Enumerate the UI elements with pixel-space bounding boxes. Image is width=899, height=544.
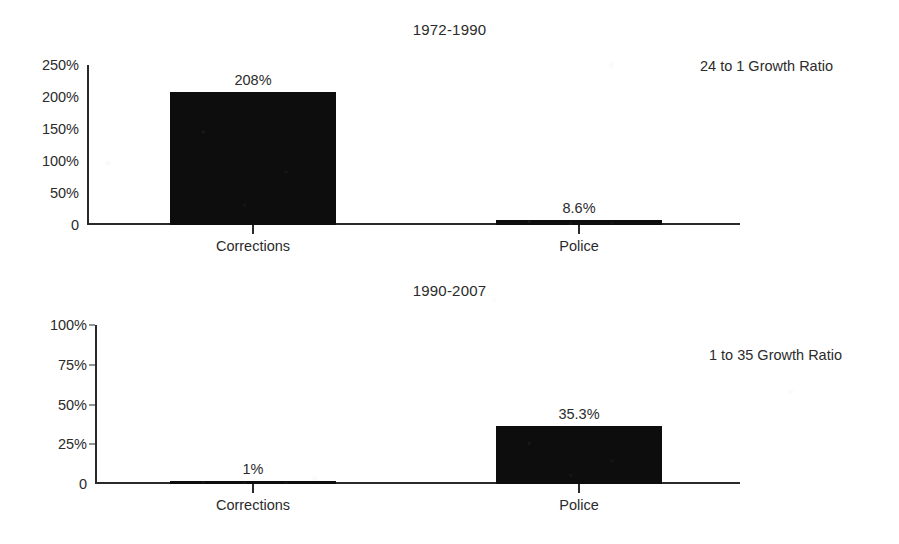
y-tick-label-0: 0 [71,217,79,233]
category-label-police-top: Police [559,238,599,254]
bar-value-corrections-top: 208% [234,72,271,88]
y-tick-mark-100-bottom [89,325,95,326]
bar-value-police-top: 8.6% [562,200,595,216]
y-tick-label-100-bottom: 100% [50,317,87,333]
bar-corrections-top: 208% [170,92,336,225]
x-tick-police-top [578,225,580,234]
bar-value-police-bottom: 35.3% [558,406,599,422]
y-axis-bottom [95,325,97,484]
y-tick-label-75-bottom: 75% [58,357,87,373]
y-tick-label-25-bottom: 25% [58,436,87,452]
y-tick-label-200: 200% [42,89,79,105]
bar-police-bottom: 35.3% [496,426,662,484]
chart-1972-1990: 1972-1990 24 to 1 Growth Ratio 0 50% 100… [0,0,899,272]
y-axis-top [87,65,89,225]
plot-area-bottom: 0 25% 50% 75% 100% 1% Corrections 35.3% … [95,325,740,484]
x-tick-corrections-bottom [252,484,254,493]
y-tick-mark-50-bottom [89,404,95,405]
plot-area-top: 0 50% 100% 150% 200% 250% 208% Correctio… [87,65,740,225]
category-label-corrections-bottom: Corrections [216,497,290,513]
y-tick-label-250: 250% [42,57,79,73]
category-label-corrections-top: Corrections [216,238,290,254]
y-tick-label-50-bottom: 50% [58,397,87,413]
y-tick-label-100: 100% [42,153,79,169]
y-tick-label-50: 50% [50,185,79,201]
chart-title-top: 1972-1990 [0,21,899,38]
y-tick-label-0-bottom: 0 [79,476,87,492]
category-label-police-bottom: Police [559,497,599,513]
bar-value-corrections-bottom: 1% [243,461,264,477]
x-tick-police-bottom [578,484,580,493]
chart-1990-2007: 1990-2007 1 to 35 Growth Ratio 0 25% 50%… [0,260,899,544]
chart-title-bottom: 1990-2007 [0,282,899,299]
y-tick-mark-75-bottom [89,364,95,365]
x-tick-corrections-top [252,225,254,234]
y-tick-label-150: 150% [42,121,79,137]
y-tick-mark-25-bottom [89,444,95,445]
